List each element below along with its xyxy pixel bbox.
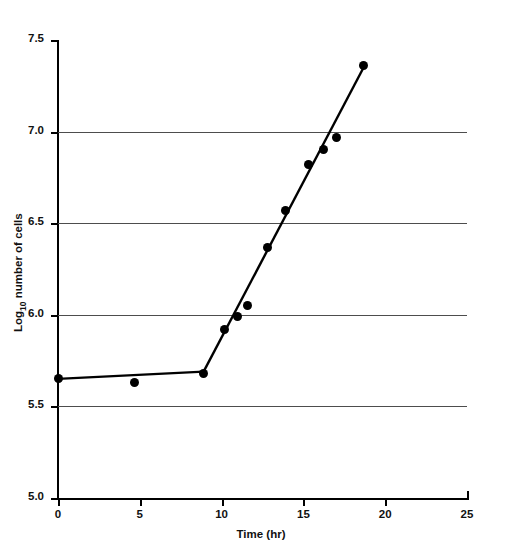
x-tick-label: 5 (120, 508, 160, 520)
y-axis-title: Log10 number of cells (12, 158, 27, 388)
plot-area (58, 40, 467, 498)
data-point (281, 206, 290, 215)
data-point (319, 145, 328, 154)
x-tick-label: 25 (447, 508, 487, 520)
data-point (199, 369, 208, 378)
exponential-phase-line (204, 64, 366, 372)
y-tick-label: 7.5 (0, 32, 44, 44)
y-tick-mark (51, 406, 58, 408)
y-tick-mark (51, 498, 58, 500)
y-tick-mark (51, 315, 58, 317)
y-tick-label: 5.5 (0, 398, 44, 410)
x-tick-label: 0 (38, 508, 78, 520)
y-tick-label: 7.0 (0, 124, 44, 136)
x-tick-mark (140, 498, 142, 506)
x-tick-label: 15 (283, 508, 323, 520)
y-tick-mark (51, 132, 58, 134)
x-tick-mark (58, 498, 60, 506)
x-axis-line (58, 498, 467, 500)
x-axis-title: Time (hr) (0, 528, 522, 540)
x-tick-label: 20 (365, 508, 405, 520)
x-tick-label: 10 (202, 508, 242, 520)
y-tick-mark (51, 223, 58, 225)
data-point (332, 133, 341, 142)
lag-phase-line (58, 372, 204, 379)
y-tick-mark (51, 40, 58, 42)
x-tick-mark (222, 498, 224, 506)
x-tick-mark (385, 498, 387, 506)
y-tick-label: 5.0 (0, 490, 44, 502)
fit-line-svg (58, 40, 467, 498)
data-point (263, 243, 272, 252)
x-tick-mark (467, 491, 469, 500)
x-tick-mark (303, 498, 305, 506)
data-point (304, 160, 313, 169)
data-point (54, 374, 63, 383)
